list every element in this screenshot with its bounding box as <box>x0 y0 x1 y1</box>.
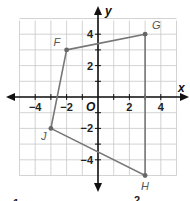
y-axis-label: y <box>104 4 113 18</box>
y-tick-label: −2 <box>80 122 93 134</box>
vertex-F-dot <box>64 48 69 53</box>
coordinate-plane: x y O −4−22442−2−4 FGHJ 1 2 <box>0 0 190 201</box>
y-tick-label: −4 <box>80 154 93 166</box>
y-axis-down-arrow-icon <box>94 183 102 192</box>
vertex-J-dot <box>49 126 54 131</box>
vertex-G-label: G <box>152 19 161 31</box>
x-tick-label: −4 <box>29 101 42 113</box>
axes: x y O <box>6 4 189 192</box>
vertex-J-label: J <box>40 130 47 142</box>
footer-fragment-right: 2 <box>134 194 140 201</box>
y-tick-label: 4 <box>87 28 94 40</box>
vertex-F-label: F <box>54 36 62 48</box>
origin-label: O <box>86 100 96 114</box>
x-axis-label: x <box>177 81 186 95</box>
y-axis-up-arrow-icon <box>94 6 102 15</box>
x-axis-left-arrow-icon <box>6 93 15 101</box>
vertex-G-dot <box>143 32 148 37</box>
vertex-H-label: H <box>141 180 149 192</box>
vertices: FGHJ <box>40 19 161 191</box>
vertex-H-dot <box>143 173 148 178</box>
x-tick-label: 4 <box>158 101 165 113</box>
y-tick-label: 2 <box>87 60 93 72</box>
x-tick-label: −2 <box>60 101 73 113</box>
x-tick-label: 2 <box>126 101 132 113</box>
footer-fragment-left: 1 <box>13 197 19 201</box>
